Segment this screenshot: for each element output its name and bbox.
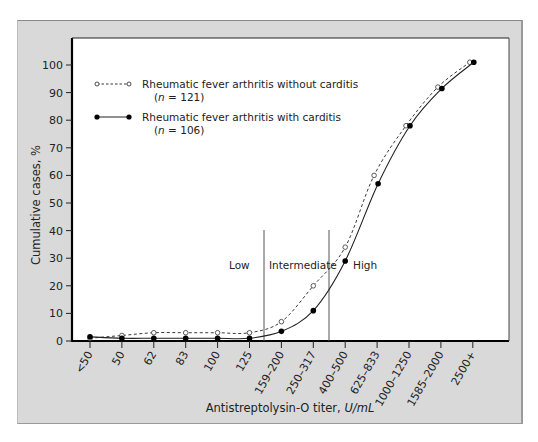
open-circle-marker-icon <box>372 173 377 178</box>
open-circle-marker-icon <box>343 245 348 250</box>
open-circle-marker-icon <box>152 330 157 335</box>
x-tick-label: 62 <box>141 349 159 368</box>
x-tick-label: 83 <box>173 349 191 368</box>
x-axis-ticks: <50506283100125159–200250–317400–500625–… <box>73 341 479 409</box>
y-tick-label: 70 <box>49 142 63 155</box>
y-tick-label: 80 <box>49 114 63 127</box>
region-label-intermediate: Intermediate <box>269 259 337 271</box>
y-tick-label: 10 <box>49 307 63 320</box>
open-circle-marker-icon <box>95 82 99 86</box>
filled-circle-marker-icon <box>247 335 253 341</box>
y-tick-label: 20 <box>49 280 63 293</box>
y-tick-label: 100 <box>42 59 63 72</box>
legend-n-with-carditis: (n = 106) <box>154 124 204 136</box>
filled-circle-marker-icon <box>126 114 131 119</box>
filled-circle-marker-icon <box>94 114 99 119</box>
y-axis-ticks: 0102030405060708090100 <box>42 59 72 348</box>
x-tick-label: 625–833 <box>348 349 383 397</box>
x-axis-title: Antistreptolysin-O titer, U/mL <box>206 401 375 415</box>
y-axis-title: Cumulative cases, % <box>29 145 43 265</box>
open-circle-marker-icon <box>127 82 131 86</box>
open-circle-marker-icon <box>311 284 316 289</box>
filled-circle-marker-icon <box>375 181 381 187</box>
y-tick-label: 30 <box>49 252 63 265</box>
open-circle-marker-icon <box>247 330 252 335</box>
x-tick-label: 159–200 <box>252 349 287 397</box>
legend-n-without-carditis: (n = 121) <box>154 91 204 103</box>
open-circle-marker-icon <box>215 330 220 335</box>
filled-circle-marker-icon <box>151 335 157 341</box>
filled-circle-marker-icon <box>183 335 189 341</box>
x-tick-label: 125 <box>233 349 255 374</box>
filled-circle-marker-icon <box>119 335 125 341</box>
filled-circle-marker-icon <box>471 59 477 65</box>
filled-circle-marker-icon <box>215 335 221 341</box>
region-label-high: High <box>353 259 377 271</box>
x-tick-label: 250–317 <box>284 349 319 397</box>
legend-label-with-carditis: Rheumatic fever arthritis with carditis <box>142 111 341 123</box>
chart: 0102030405060708090100 <5050628310012515… <box>0 0 538 442</box>
x-tick-label: 100 <box>201 349 223 374</box>
y-tick-label: 0 <box>56 335 63 348</box>
x-tick-label: <50 <box>73 349 96 376</box>
x-tick-label: 2500+ <box>449 349 479 388</box>
open-circle-marker-icon <box>183 330 188 335</box>
y-tick-label: 50 <box>49 197 63 210</box>
x-tick-label: 400–500 <box>316 349 351 397</box>
filled-circle-marker-icon <box>311 308 317 314</box>
filled-circle-marker-icon <box>87 334 93 340</box>
filled-circle-marker-icon <box>342 258 348 264</box>
y-tick-label: 40 <box>49 225 63 238</box>
x-tick-label: 50 <box>109 349 127 368</box>
open-circle-marker-icon <box>279 319 284 324</box>
legend-label-without-carditis: Rheumatic fever arthritis without cardit… <box>142 78 358 90</box>
filled-circle-marker-icon <box>407 123 413 129</box>
y-tick-label: 90 <box>49 87 63 100</box>
region-label-low: Low <box>229 259 250 271</box>
filled-circle-marker-icon <box>439 86 445 92</box>
y-tick-label: 60 <box>49 169 63 182</box>
filled-circle-marker-icon <box>279 329 285 335</box>
